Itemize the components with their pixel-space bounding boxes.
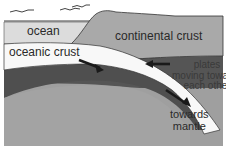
- plates-moving-label: plates moving towards each other: [172, 60, 226, 92]
- plates-label-line3: each other: [172, 81, 226, 92]
- mantle-label-line1: towards: [170, 108, 209, 120]
- seagull-icon: [72, 5, 90, 7]
- mantle-label-line2: mantle: [170, 120, 209, 132]
- ocean-label: ocean: [27, 25, 60, 37]
- plates-label-line1: plates: [172, 60, 226, 71]
- towards-mantle-label: towards mantle: [170, 108, 209, 132]
- continental-crust-label: continental crust: [115, 30, 202, 42]
- seagull-icon: [10, 10, 34, 12]
- oceanic-crust-label: oceanic crust: [9, 46, 80, 58]
- seagull-icon: [60, 8, 80, 10]
